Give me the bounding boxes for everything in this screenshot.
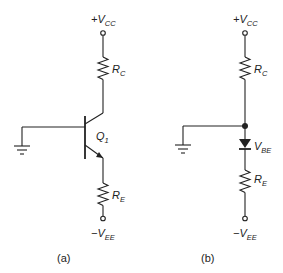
panel-a: +VCC RC Q1 RE −VEE <box>14 13 126 264</box>
caption-b: (b) <box>201 252 214 264</box>
vcc-label-a: +VCC <box>91 13 116 28</box>
rc-label-b: RC <box>254 63 268 78</box>
emitter-arrow-icon <box>96 152 103 158</box>
circuit-diagram: +VCC RC Q1 RE −VEE <box>0 0 283 273</box>
ground-icon-a <box>14 127 30 154</box>
vee-label-b: −VEE <box>233 227 258 242</box>
resistor-rc-b <box>240 57 250 80</box>
re-label-a: RE <box>112 189 126 204</box>
ground-icon-b <box>175 126 191 153</box>
resistor-rc-a <box>98 57 108 80</box>
vee-terminal-a <box>101 216 106 221</box>
vcc-label-b: +VCC <box>233 13 258 28</box>
re-label-b: RE <box>254 173 268 188</box>
resistor-re-a <box>98 183 108 206</box>
vbe-label: VBE <box>254 140 272 155</box>
resistor-re-b <box>240 170 250 193</box>
q1-label: Q1 <box>96 130 109 145</box>
vcc-terminal-b <box>243 31 248 36</box>
vee-terminal-b <box>243 216 248 221</box>
rc-label-a: RC <box>112 63 126 78</box>
diode-icon <box>239 139 251 149</box>
vee-label-a: −VEE <box>91 227 116 242</box>
vcc-terminal-a <box>101 31 106 36</box>
collector-lead <box>85 113 103 124</box>
caption-a: (a) <box>57 252 70 264</box>
panel-b: +VCC RC VBE RE −VEE (b) <box>175 13 272 264</box>
